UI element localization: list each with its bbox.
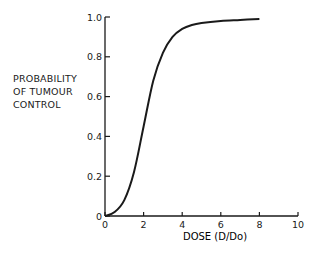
x-tick-label: 10	[292, 219, 304, 230]
x-axis-label: DOSE (D/Do)	[183, 231, 247, 242]
x-tick-label: 0	[102, 219, 108, 230]
x-tick-label: 4	[179, 219, 185, 230]
data-curve	[105, 19, 259, 216]
axes: 00.20.40.60.81.00246810	[87, 12, 304, 231]
y-tick-label: 0.6	[87, 91, 102, 102]
dose-response-chart: 00.20.40.60.81.00246810 DOSE (D/Do)	[0, 0, 311, 253]
y-tick-label: 0.4	[87, 131, 102, 142]
y-tick-label: 0.8	[87, 51, 102, 62]
y-tick-label: 1.0	[87, 12, 102, 23]
x-tick-label: 6	[218, 219, 224, 230]
x-tick-label: 2	[141, 219, 147, 230]
y-tick-label: 0.2	[87, 171, 102, 182]
x-tick-label: 8	[256, 219, 262, 230]
